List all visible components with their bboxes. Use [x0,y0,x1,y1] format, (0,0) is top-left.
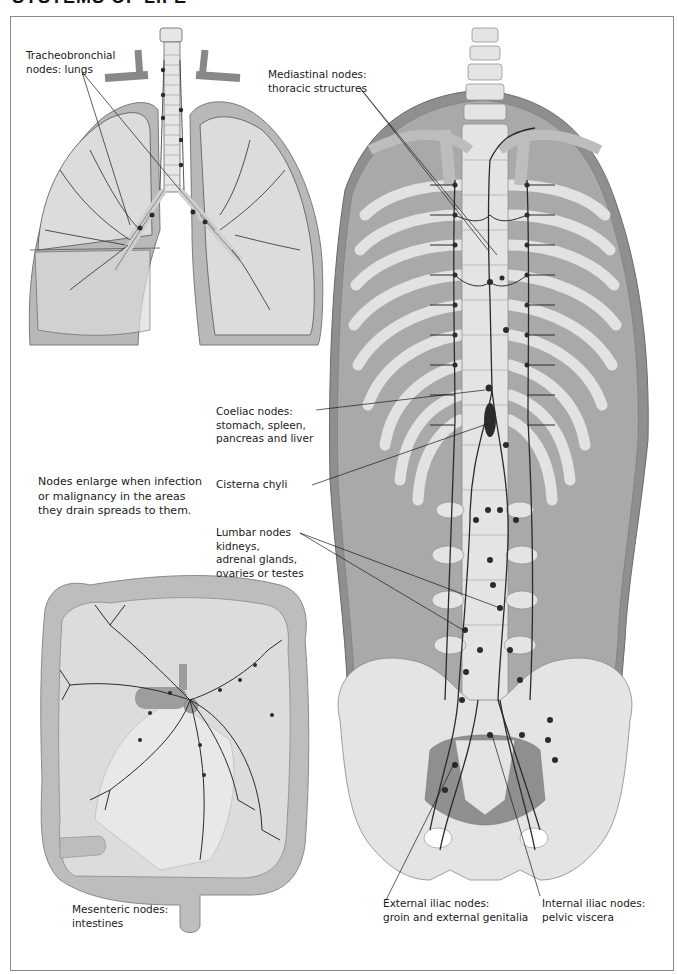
label-lumbar-nodes: Lumbar nodes kidneys, adrenal glands, ov… [216,526,304,580]
label-line: Cisterna chyli [216,478,287,492]
label-line: Lumbar nodes [216,526,304,540]
label-coeliac-nodes: Coeliac nodes: stomach, spleen, pancreas… [216,405,313,446]
label-line: groin and external genitalia [383,911,528,925]
torso-panel [300,28,648,900]
label-line: adrenal glands, [216,553,304,567]
label-line: Mesenteric nodes: [72,903,168,917]
label-line: External iliac nodes: [383,897,528,911]
intestines-panel [41,576,309,933]
note-nodes-enlarge: Nodes enlarge when infection or malignan… [38,475,202,519]
label-line: nodes: lungs [26,63,115,77]
label-tracheobronchial-nodes: Tracheobronchial nodes: lungs [26,49,115,76]
label-line: kidneys, [216,540,304,554]
label-internal-iliac-nodes: Internal iliac nodes: pelvic viscera [542,897,645,924]
label-line: stomach, spleen, [216,419,313,433]
note-line: or malignancy in the areas [38,490,202,505]
label-line: Coeliac nodes: [216,405,313,419]
label-line: ovaries or testes [216,567,304,581]
label-line: pancreas and liver [216,432,313,446]
label-mediastinal-nodes: Mediastinal nodes: thoracic structures [268,68,367,95]
label-line: thoracic structures [268,82,367,96]
label-cisterna-chyli: Cisterna chyli [216,478,287,492]
label-line: Internal iliac nodes: [542,897,645,911]
note-line: Nodes enlarge when infection [38,475,202,490]
label-line: pelvic viscera [542,911,645,925]
label-line: Mediastinal nodes: [268,68,367,82]
label-line: Tracheobronchial [26,49,115,63]
label-mesenteric-nodes: Mesenteric nodes: intestines [72,903,168,930]
label-external-iliac-nodes: External iliac nodes: groin and external… [383,897,528,924]
label-line: intestines [72,917,168,931]
note-line: they drain spreads to them. [38,504,202,519]
